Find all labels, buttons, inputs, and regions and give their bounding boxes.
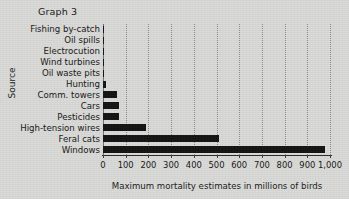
bar — [103, 135, 219, 142]
x-tick-label: 500 — [209, 160, 225, 170]
category-label: Fishing by-catch — [30, 25, 103, 34]
x-tick — [148, 155, 149, 158]
category-label: Comm. towers — [38, 91, 103, 100]
bar — [103, 102, 119, 109]
y-axis-label: Source — [7, 58, 17, 108]
bar-row: Pesticides — [103, 111, 330, 122]
bar — [103, 59, 104, 66]
bar — [103, 81, 106, 88]
bar-row: Comm. towers — [103, 89, 330, 100]
category-label: Wind turbines — [40, 58, 103, 67]
bar — [103, 26, 104, 33]
bar — [103, 91, 117, 98]
x-tick — [239, 155, 240, 158]
bar — [103, 146, 325, 153]
x-tick — [285, 155, 286, 158]
bar-row: Feral cats — [103, 133, 330, 144]
x-tick-label: 100 — [118, 160, 134, 170]
bar-row: Oil waste pits — [103, 68, 330, 79]
bar-row: Wind turbines — [103, 57, 330, 68]
x-tick-label: 200 — [140, 160, 156, 170]
bar-row: Windows — [103, 144, 330, 155]
category-label: Pesticides — [57, 113, 103, 122]
gridline — [330, 24, 331, 155]
category-label: Cars — [81, 102, 103, 111]
chart-title: Graph 3 — [38, 6, 77, 17]
x-tick — [307, 155, 308, 158]
x-tick-label: 900 — [299, 160, 315, 170]
bar-row: Cars — [103, 100, 330, 111]
x-tick-label: 0 — [100, 160, 105, 170]
category-label: Electrocution — [44, 47, 103, 56]
bar — [103, 70, 104, 77]
x-tick — [262, 155, 263, 158]
bar-row: Hunting — [103, 79, 330, 90]
bar — [103, 113, 119, 120]
category-label: Oil waste pits — [42, 69, 103, 78]
x-axis-label: Maximum mortality estimates in millions … — [103, 181, 331, 191]
x-tick-label: 300 — [163, 160, 179, 170]
x-tick-label: 400 — [186, 160, 202, 170]
bar-row: Oil spills — [103, 35, 330, 46]
category-label: Windows — [62, 146, 103, 155]
category-label: Oil spills — [64, 36, 103, 45]
x-tick — [330, 155, 331, 158]
bar — [103, 37, 104, 44]
bar-chart: Graph 3 Source Fishing by-catchOil spill… — [0, 0, 349, 199]
category-label: Feral cats — [58, 135, 103, 144]
category-label: High-tension wires — [20, 124, 103, 133]
bar-row: Fishing by-catch — [103, 24, 330, 35]
bar — [103, 48, 104, 55]
x-tick-label: 600 — [231, 160, 247, 170]
x-tick — [126, 155, 127, 158]
plot-area: Fishing by-catchOil spillsElectrocutionW… — [103, 24, 330, 155]
x-tick — [217, 155, 218, 158]
bar-row: High-tension wires — [103, 122, 330, 133]
bar — [103, 124, 146, 131]
x-tick-label: 800 — [277, 160, 293, 170]
x-tick — [171, 155, 172, 158]
x-tick-label: 1,000 — [318, 160, 342, 170]
x-tick-label: 700 — [254, 160, 270, 170]
x-tick — [103, 155, 104, 158]
x-tick — [194, 155, 195, 158]
bar-row: Electrocution — [103, 46, 330, 57]
category-label: Hunting — [66, 80, 103, 89]
